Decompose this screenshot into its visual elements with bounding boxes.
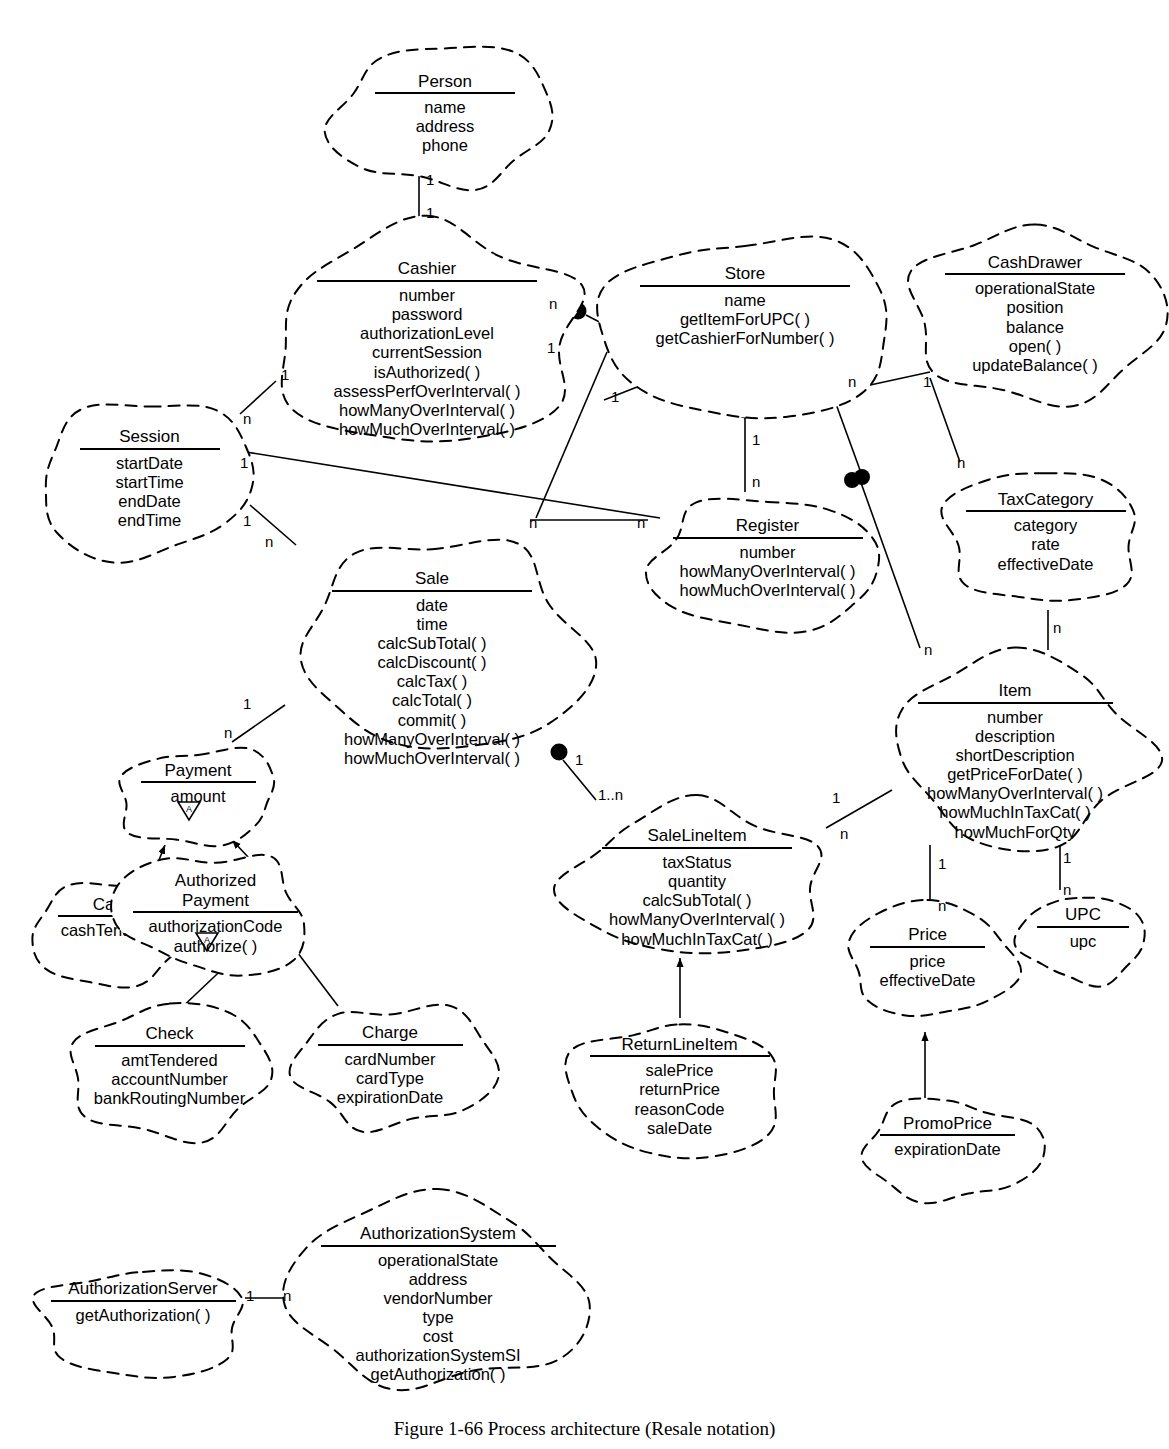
class-name-separator [95,1045,245,1047]
multiplicity-m-cashier-store-1: 1 [547,340,555,355]
class-member: password [262,305,592,324]
class-member: number [262,286,592,305]
class-name-separator [375,92,515,94]
class-member: commit( ) [282,711,582,730]
class-node-check[interactable]: CheckamtTenderedaccountNumberbankRouting… [62,1000,277,1140]
class-name-price: Price [904,925,951,945]
class-member: bankRoutingNumber [62,1089,277,1108]
class-node-sale[interactable]: SaledatetimecalcSubTotal( )calcDiscount(… [282,530,582,760]
class-name-payment: Payment [160,761,235,781]
class-members-cashier: numberpasswordauthorizationLevelcurrentS… [262,286,592,439]
class-member: calcTax( ) [282,672,582,691]
class-members-store: namegetItemForUPC( )getCashierForNumber(… [600,291,890,348]
class-member: expirationDate [290,1088,490,1107]
class-name-returnlineitem: ReturnLineItem [617,1035,741,1055]
class-node-session[interactable]: SessionstartDatestartTimeendDateendTime [32,400,267,560]
class-member: cardNumber [290,1050,490,1069]
class-members-promoprice: expirationDate [860,1140,1035,1159]
class-name-separator [51,1300,236,1302]
class-member: reasonCode [572,1100,787,1119]
class-name-charge: Charge [358,1023,422,1043]
class-name-session: Session [115,427,183,447]
class-member: effectiveDate [938,555,1153,574]
multiplicity-m-person-cashier-bottom: 1 [426,205,434,220]
class-member: balance [910,318,1160,337]
class-member: vendorNumber [288,1289,588,1308]
class-name-separator [870,946,985,948]
class-name-promoprice: PromoPrice [899,1114,996,1134]
class-name-salelineitem: SaleLineItem [643,826,750,846]
class-member: description [880,727,1150,746]
class-member: endDate [32,492,267,511]
multiplicity-m-price-item-n: n [938,898,946,913]
multiplicity-m-session-register-1: 1 [240,455,248,470]
class-name-separator [673,537,863,539]
class-name-separator [640,285,850,287]
class-member: startDate [32,454,267,473]
class-node-authorizationsystem[interactable]: AuthorizationSystemoperationalStateaddre… [288,1190,588,1390]
class-member: effectiveDate [840,971,1015,990]
multiplicity-m-sale-session-n: n [265,534,273,549]
class-member: phone [330,136,560,155]
class-member: accountNumber [62,1070,277,1089]
class-node-authorizationserver[interactable]: AuthorizationServergetAuthorization( ) [28,1258,258,1383]
class-member: getItemForUPC( ) [600,310,890,329]
multiplicity-m-sale-sli-1: 1 [575,752,583,767]
class-node-item[interactable]: ItemnumberdescriptionshortDescriptionget… [880,648,1150,843]
class-member: date [282,596,582,615]
class-node-cashier[interactable]: CashiernumberpasswordauthorizationLevelc… [262,222,592,442]
class-member: howMuchInTaxCat( ) [880,803,1150,822]
class-node-upc[interactable]: UPCupc [1018,888,1148,988]
class-name-separator [966,510,1126,512]
multiplicity-m-item-upc-1: 1 [1063,850,1071,865]
class-node-cashdrawer[interactable]: CashDraweroperationalStatepositionbalanc… [910,222,1160,402]
multiplicity-m-sale-payment-1: 1 [243,696,251,711]
class-member: name [330,98,560,117]
multiplicity-m-cashier-store-n: n [549,296,557,311]
class-members-cashdrawer: operationalStatepositionbalanceopen( )up… [910,279,1160,375]
class-members-session: startDatestartTimeendDateendTime [32,454,267,531]
class-name-authorizedpayment: AuthorizedPayment [171,871,260,910]
class-members-charge: cardNumbercardTypeexpirationDate [290,1050,490,1107]
class-name-store: Store [721,264,770,284]
multiplicity-m-register-session-n2: n [637,515,645,530]
class-node-person[interactable]: Personnameaddressphone [330,46,560,196]
class-name-separator [1037,926,1129,928]
class-member: assessPerfOverInterval( ) [262,382,592,401]
class-member: salePrice [572,1061,787,1080]
multiplicity-m-cashdrawer-reg-1: 1 [923,374,931,389]
class-node-salelineitem[interactable]: SaleLineItemtaxStatusquantitycalcSubTota… [562,800,832,955]
class-node-price[interactable]: PricepriceeffectiveDate [840,905,1015,1025]
class-name-authorizationsystem: AuthorizationSystem [356,1224,520,1244]
multiplicity-m-sli-item-1: 1 [832,790,840,805]
class-member: howMuchForQty [880,823,1150,842]
figure-caption: Figure 1-66 Process architecture (Resale… [0,1418,1169,1440]
class-node-payment[interactable]: APaymentamount [108,742,288,852]
class-member: getAuthorization( ) [28,1306,258,1325]
class-member: endTime [32,511,267,530]
class-member: howMuchOverInterval( ) [640,581,895,600]
class-node-promoprice[interactable]: PromoPriceexpirationDate [860,1095,1035,1205]
class-name-separator [318,1044,463,1046]
class-node-register[interactable]: RegisternumberhowManyOverInterval( )howM… [640,492,895,632]
class-member: shortDescription [880,746,1150,765]
class-node-returnlineitem[interactable]: ReturnLineItemsalePricereturnPricereason… [572,1010,787,1155]
class-members-price: priceeffectiveDate [840,952,1015,990]
class-member: authorizationCode [118,917,313,936]
class-member: quantity [562,872,832,891]
class-name-item: Item [994,681,1035,701]
class-members-authorizedpayment: authorizationCodeauthorize( ) [118,917,313,955]
class-node-authorizedpayment[interactable]: AAuthorizedPaymentauthorizationCodeautho… [118,848,313,983]
class-members-upc: upc [1018,932,1148,951]
class-member: howManyOverInterval( ) [282,730,582,749]
class-node-charge[interactable]: ChargecardNumbercardTypeexpirationDate [290,1000,490,1135]
class-member: howMuchOverInterval( ) [282,749,582,768]
multiplicity-m-session-sale-1: 1 [243,513,251,528]
class-member: taxStatus [562,853,832,872]
class-member: currentSession [262,343,592,362]
class-member: amtTendered [62,1051,277,1070]
class-node-store[interactable]: StorenamegetItemForUPC( )getCashierForNu… [600,232,890,422]
class-node-taxcategory[interactable]: TaxCategorycategoryrateeffectiveDate [938,465,1153,610]
class-member: amount [108,787,288,806]
class-name-authorizationserver: AuthorizationServer [64,1279,221,1299]
